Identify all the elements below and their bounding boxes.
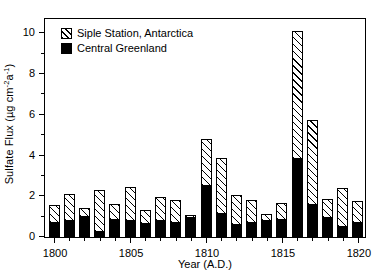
- plot-area: 0246810 18001805181018151820 Siple Stati…: [44, 18, 366, 238]
- legend-swatch-hatched-icon: [61, 28, 72, 39]
- bar-segment-siple-1812: [231, 195, 242, 225]
- x-tick-minor-1819: [343, 237, 344, 241]
- bar-1805: [125, 187, 136, 237]
- bar-segment-siple-1820: [352, 201, 363, 222]
- bar-segment-greenland-1803: [94, 232, 105, 237]
- bar-1802: [79, 208, 90, 237]
- bar-1810: [201, 139, 212, 237]
- x-tick-1800: 1800: [54, 237, 55, 243]
- bar-segment-greenland-1808: [170, 223, 181, 237]
- x-tick-minor-1803: [100, 237, 101, 241]
- y-axis-title-sup2: -1: [1, 67, 10, 74]
- y-tick-minor-3: [41, 175, 45, 176]
- y-tick-minor-5: [41, 134, 45, 135]
- bar-segment-greenland-1816: [292, 159, 303, 237]
- x-tick-minor-1808: [176, 237, 177, 241]
- y-tick-minor-9: [41, 53, 45, 54]
- bar-segment-greenland-1801: [64, 221, 75, 237]
- bar-segment-siple-1805: [125, 187, 136, 221]
- bar-segment-greenland-1814: [261, 221, 272, 237]
- x-axis-title: Year (A.D.): [44, 258, 366, 270]
- x-tick-1805: 1805: [130, 237, 131, 243]
- bar-segment-siple-1807: [155, 197, 166, 220]
- x-tick-minor-1802: [84, 237, 85, 241]
- y-tick-minor-1: [41, 216, 45, 217]
- bar-1813: [246, 200, 257, 237]
- y-axis-title: Sulfate Flux (µg cm-2a-1): [0, 0, 18, 248]
- x-tick-minor-1816: [297, 237, 298, 241]
- bar-segment-greenland-1805: [125, 221, 136, 237]
- y-tick-minor-7: [41, 93, 45, 94]
- sulfate-flux-chart: Sulfate Flux (µg cm-2a-1) 0246810 180018…: [0, 0, 386, 280]
- legend-swatch-solid-icon: [61, 43, 72, 54]
- y-axis-title-sup1: -2: [1, 81, 10, 88]
- y-tick-label-4: 4: [29, 149, 35, 161]
- bar-1819: [337, 188, 348, 237]
- x-tick-1815: 1815: [282, 237, 283, 243]
- bar-1811: [216, 158, 227, 237]
- bar-segment-greenland-1806: [140, 224, 151, 237]
- bar-segment-siple-1804: [109, 204, 120, 219]
- bar-segment-greenland-1819: [337, 227, 348, 237]
- bar-segment-siple-1814: [261, 214, 272, 221]
- x-tick-minor-1807: [160, 237, 161, 241]
- bar-segment-greenland-1815: [276, 220, 287, 237]
- x-tick-1810: 1810: [206, 237, 207, 243]
- bar-segment-greenland-1809: [185, 218, 196, 237]
- x-tick-minor-1818: [328, 237, 329, 241]
- bar-segment-greenland-1800: [49, 223, 60, 237]
- bar-segment-siple-1818: [322, 199, 333, 217]
- y-axis-title-prefix: Sulfate Flux (µg cm: [3, 87, 15, 184]
- bar-1809: [185, 215, 196, 237]
- bar-1807: [155, 197, 166, 237]
- y-axis-title-suffix: ): [3, 64, 15, 68]
- bar-segment-siple-1811: [216, 158, 227, 214]
- x-tick-minor-1817: [312, 237, 313, 241]
- y-tick-4: 4: [39, 155, 45, 156]
- x-tick-minor-1801: [69, 237, 70, 241]
- bar-segment-greenland-1820: [352, 223, 363, 237]
- bar-segment-siple-1800: [49, 205, 60, 222]
- bar-segment-siple-1806: [140, 210, 151, 224]
- x-tick-minor-1814: [267, 237, 268, 241]
- bar-1803: [94, 190, 105, 237]
- legend-item-siple: Siple Station, Antarctica: [61, 27, 193, 39]
- x-tick-minor-1811: [221, 237, 222, 241]
- bar-1815: [276, 203, 287, 237]
- y-tick-6: 6: [39, 114, 45, 115]
- y-tick-label-0: 0: [29, 230, 35, 242]
- y-tick-0: 0: [39, 236, 45, 237]
- bar-1814: [261, 214, 272, 237]
- x-tick-1820: 1820: [358, 237, 359, 243]
- bar-1816: [292, 31, 303, 237]
- bar-segment-siple-1813: [246, 200, 257, 222]
- bar-segment-siple-1802: [79, 208, 90, 216]
- bar-1800: [49, 205, 60, 237]
- y-tick-10: 10: [39, 32, 45, 33]
- legend: Siple Station, Antarctica Central Greenl…: [61, 27, 193, 57]
- bar-segment-greenland-1812: [231, 225, 242, 237]
- bar-segment-greenland-1810: [201, 186, 212, 237]
- x-tick-minor-1813: [252, 237, 253, 241]
- bar-1801: [64, 194, 75, 237]
- x-tick-minor-1806: [145, 237, 146, 241]
- y-axis-title-mid: a: [3, 74, 15, 80]
- bar-segment-siple-1801: [64, 194, 75, 220]
- bar-segment-siple-1808: [170, 200, 181, 222]
- bar-segment-siple-1803: [94, 190, 105, 232]
- bar-1808: [170, 200, 181, 237]
- bar-1817: [307, 120, 318, 237]
- y-tick-2: 2: [39, 195, 45, 196]
- legend-label-greenland: Central Greenland: [77, 42, 167, 54]
- bar-1804: [109, 204, 120, 237]
- x-tick-minor-1809: [191, 237, 192, 241]
- bar-segment-siple-1816: [292, 31, 303, 158]
- legend-label-siple: Siple Station, Antarctica: [77, 27, 193, 39]
- bar-segment-greenland-1813: [246, 223, 257, 237]
- bar-segment-greenland-1818: [322, 218, 333, 237]
- y-axis-title-text: Sulfate Flux (µg cm-2a-1): [3, 64, 15, 185]
- x-tick-minor-1812: [236, 237, 237, 241]
- y-tick-label-10: 10: [23, 26, 35, 38]
- y-tick-8: 8: [39, 73, 45, 74]
- bar-segment-greenland-1804: [109, 220, 120, 237]
